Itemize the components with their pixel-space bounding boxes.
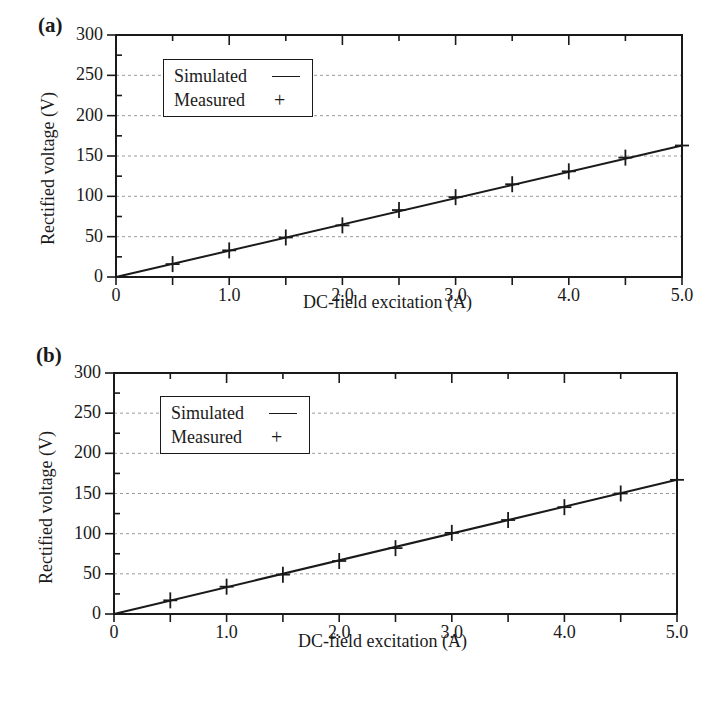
y-tick-label: 150 (51, 483, 101, 504)
y-tick-label: 250 (53, 64, 103, 85)
x-tick-label: 2.0 (319, 622, 359, 643)
y-tick-label: 300 (53, 24, 103, 45)
legend-entry-measured: Measured + (171, 425, 299, 449)
measured-point (279, 229, 293, 245)
line-swatch-icon (269, 413, 297, 414)
measured-point (562, 163, 576, 179)
x-tick-label: 5.0 (657, 622, 697, 643)
x-tick-label: 0 (96, 285, 136, 306)
x-tick-label: 0 (94, 622, 134, 643)
x-tick-label: 3.0 (436, 285, 476, 306)
measured-point (618, 150, 632, 166)
y-tick-label: 250 (51, 402, 101, 423)
x-tick-label: 4.0 (544, 622, 584, 643)
x-tick-label: 5.0 (662, 285, 702, 306)
plus-marker-icon: + (274, 88, 302, 112)
y-tick-label: 100 (51, 523, 101, 544)
chart-panel-b: (b) Rectified voltage (V) DC-field excit… (0, 340, 720, 702)
measured-point (501, 512, 515, 528)
x-tick-label: 1.0 (209, 285, 249, 306)
legend-entry-measured: Measured + (174, 88, 302, 112)
legend-b: Simulated Measured + (160, 396, 310, 454)
measured-point (332, 553, 346, 569)
measured-point (220, 579, 234, 595)
y-tick-label: 150 (53, 145, 103, 166)
measured-point (163, 592, 177, 608)
measured-point (557, 499, 571, 515)
x-tick-label: 3.0 (432, 622, 472, 643)
y-tick-label: 200 (53, 105, 103, 126)
measured-point (449, 189, 463, 205)
y-tick-label: 0 (51, 603, 101, 624)
legend-entry-simulated: Simulated (171, 401, 299, 425)
y-tick-label: 300 (51, 362, 101, 383)
y-tick-label: 100 (53, 185, 103, 206)
measured-point (505, 176, 519, 192)
line-swatch-icon (272, 76, 300, 77)
measured-point (675, 138, 689, 154)
chart-panel-a: (a) Rectified voltage (V) DC-field excit… (0, 0, 720, 340)
measured-point (222, 242, 236, 258)
measured-point (335, 217, 349, 233)
x-tick-label: 4.0 (549, 285, 589, 306)
y-tick-label: 0 (53, 266, 103, 287)
x-tick-label: 1.0 (207, 622, 247, 643)
measured-point (389, 540, 403, 556)
y-tick-label: 50 (51, 563, 101, 584)
legend-entry-simulated: Simulated (174, 64, 302, 88)
legend-a: Simulated Measured + (163, 59, 313, 117)
measured-point (392, 202, 406, 218)
y-tick-label: 200 (51, 442, 101, 463)
measured-point (445, 525, 459, 541)
measured-point (276, 567, 290, 583)
measured-point (166, 256, 180, 272)
x-tick-label: 2.0 (322, 285, 362, 306)
plus-marker-icon: + (271, 425, 299, 449)
y-tick-label: 50 (53, 226, 103, 247)
measured-point (670, 472, 684, 488)
measured-point (614, 486, 628, 502)
